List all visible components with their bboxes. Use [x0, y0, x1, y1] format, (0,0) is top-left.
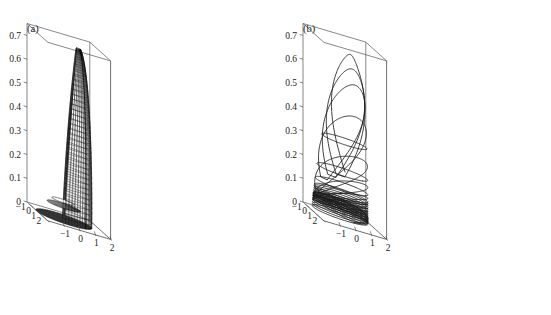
- z-tickmark: [300, 82, 303, 83]
- x-tick-label: −1: [336, 229, 346, 239]
- panel-a-canvas: 00.10.20.30.40.50.60.7−1012−1012 (a): [0, 0, 275, 315]
- z-tickmark: [300, 58, 303, 59]
- y-tick-label: 2: [313, 216, 318, 226]
- y-tickmark: [321, 218, 326, 222]
- y-tick-label: 2: [37, 216, 42, 226]
- panel-b-label: (b): [303, 23, 316, 35]
- y-tickmark: [45, 218, 50, 222]
- z-tickmark: [300, 130, 303, 131]
- z-tickmark: [300, 153, 303, 154]
- z-tickmark: [300, 34, 303, 35]
- x-tick-label: −1: [60, 229, 70, 239]
- z-tickmark: [24, 177, 27, 178]
- z-tick-label: 0.4: [9, 102, 21, 112]
- x-tick-label: 2: [386, 243, 391, 253]
- z-tickmark: [24, 153, 27, 154]
- z-tickmark: [300, 106, 303, 107]
- panel-a: 00.10.20.30.40.50.60.7−1012−1012 (a): [0, 0, 275, 315]
- y-tick-label: −1: [292, 202, 302, 212]
- x-tick-label: 1: [94, 238, 99, 248]
- z-tickmark: [24, 106, 27, 107]
- z-tickmark: [24, 130, 27, 131]
- panel-a-label: (a): [27, 23, 39, 35]
- z-tick-label: 0.2: [9, 150, 21, 160]
- x-tick-label: 0: [78, 234, 83, 244]
- x-tickmark: [355, 227, 357, 232]
- z-tickmark: [24, 82, 27, 83]
- z-tick-label: 0.1: [285, 173, 297, 183]
- panel-b: 00.10.20.30.40.50.60.7−1012−1012 (b): [276, 0, 551, 315]
- y-tick-label: −1: [16, 202, 26, 212]
- z-tick-label: 0.2: [285, 150, 297, 160]
- figure-root: 00.10.20.30.40.50.60.7−1012−1012 (a) 00.…: [0, 0, 551, 315]
- z-tick-label: 0.7: [9, 31, 21, 41]
- x-tickmark: [370, 231, 372, 236]
- z-tick-label: 0.3: [9, 126, 21, 136]
- z-tick-label: 0.1: [9, 173, 21, 183]
- x-tickmark: [94, 231, 96, 236]
- x-tickmark: [339, 222, 341, 227]
- z-tick-label: 0.5: [285, 78, 297, 88]
- x-tick-label: 1: [370, 238, 375, 248]
- axis-line: [324, 42, 387, 61]
- panel-b-canvas: 00.10.20.30.40.50.60.7−1012−1012 (b): [276, 0, 551, 315]
- z-tickmark: [24, 34, 27, 35]
- z-tickmark: [24, 58, 27, 59]
- z-tick-label: 0.6: [9, 54, 21, 64]
- z-tick-label: 0.5: [9, 78, 21, 88]
- z-tickmark: [300, 177, 303, 178]
- z-tick-label: 0.3: [285, 126, 297, 136]
- x-tick-label: 2: [110, 243, 115, 253]
- x-tick-label: 0: [354, 234, 359, 244]
- z-tick-label: 0.4: [285, 102, 297, 112]
- z-tick-label: 0.7: [285, 31, 297, 41]
- z-tick-label: 0.6: [285, 54, 297, 64]
